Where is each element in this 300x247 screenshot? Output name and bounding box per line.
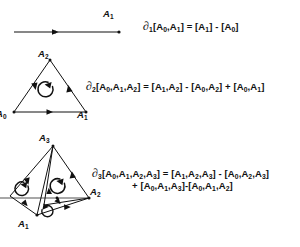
equation-boundary-3-line1: ∂3[A0,A1,A2,A3] = [A1,A2,A3] - [A0,A2,A3… xyxy=(92,166,269,181)
triangle-vertex-dot-a2 xyxy=(49,59,52,62)
segment-midpoint-dot xyxy=(54,31,57,34)
equation-3-body-line2: + [A0,A1,A3]-[A0,A1,A2] xyxy=(132,180,233,191)
triangle-orientation-curl-arrowhead xyxy=(45,82,52,89)
label-triangle-a1: A1 xyxy=(77,109,88,121)
triangle-edge-a2-a0 xyxy=(14,60,50,112)
label-triangle-a0: A0 xyxy=(0,108,7,120)
diagram-2-simplex xyxy=(13,59,88,115)
tetra-arrow-a3-a2 xyxy=(70,171,76,178)
label-tetrahedron-a1: A1 xyxy=(18,218,29,230)
tetra-vertex-dot-a1 xyxy=(35,213,38,216)
equation-boundary-1: ∂1[A0,A1] = [A1] - [A0] xyxy=(143,19,239,34)
label-triangle-a2: A2 xyxy=(38,48,49,60)
equation-2-body: [A0,A1,A2] = [A1,A2] - [A0,A2] + [A0,A1] xyxy=(96,81,265,92)
label-tetrahedron-a3: A3 xyxy=(39,132,50,144)
diagram-1-simplex xyxy=(14,29,121,35)
tetra-vertex-dot-a3 xyxy=(52,145,55,148)
equation-boundary-3-line2: + [A0,A1,A3]-[A0,A1,A2] xyxy=(132,180,233,192)
segment-endpoint-dot-a1 xyxy=(117,30,120,33)
tetra-edge-interior-a2 xyxy=(44,198,89,205)
tetra-edge-a1-a0 xyxy=(10,196,37,215)
figure-canvas: ∂1[A0,A1] = [A1] - [A0] ∂2[A0,A1,A2] = [… xyxy=(0,0,300,247)
triangle-arrow-a1-a2 xyxy=(66,85,72,93)
diagram-3-simplex xyxy=(0,145,91,217)
label-segment-a1: A1 xyxy=(103,8,114,20)
equation-boundary-2: ∂2[A0,A1,A2] = [A1,A2] - [A0,A2] + [A0,A… xyxy=(86,79,264,94)
label-tetrahedron-a2: A2 xyxy=(90,186,101,198)
triangle-vertex-dot-a0 xyxy=(13,111,16,114)
equation-3-body-line1: [A0,A1,A2,A3] = [A1,A2,A3] - [A0,A2,A3] xyxy=(102,168,269,179)
triangle-edge-midpoint-bottom xyxy=(48,111,51,114)
equation-1-body: [A0,A1] = [A1] - [A0] xyxy=(153,21,239,32)
diagram-vector-layer xyxy=(0,0,300,247)
tetra-arrow-a1-a0 xyxy=(21,200,28,207)
tetra-edge-a3-a2 xyxy=(53,146,89,198)
